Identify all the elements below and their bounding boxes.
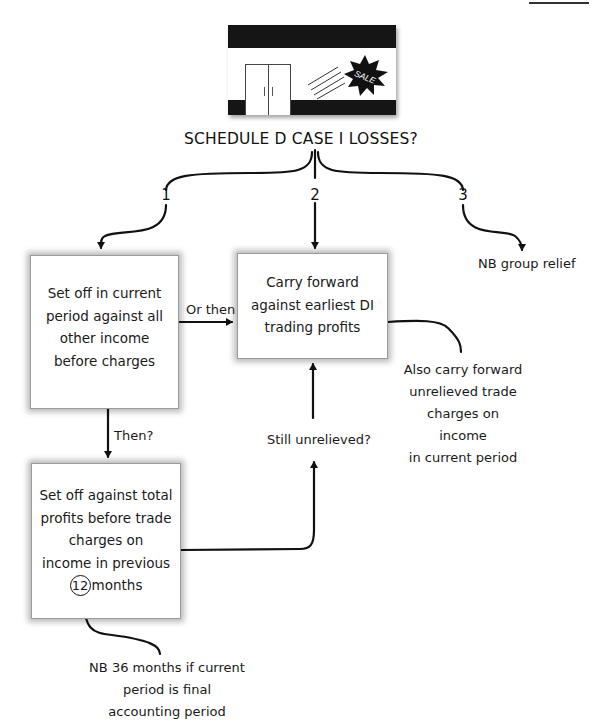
box3-line-4: income in previous [39, 552, 172, 575]
box3-line-3: charges on [39, 529, 172, 552]
label-or-then: Or then [186, 299, 235, 321]
box3-to-unrelieved-line [181, 462, 314, 550]
box2-note-connector [388, 321, 461, 352]
shop-door-icon [245, 64, 291, 115]
box-set-off-current-period-text: Set off in current period against all ot… [46, 282, 163, 372]
branch-number-3: 3 [453, 186, 473, 204]
box3-months-text: months [92, 577, 143, 593]
box-carry-forward-text: Carry forward against earliest DI tradin… [251, 271, 374, 339]
box3-line-5: 12months [39, 574, 172, 597]
door-handle-left [264, 87, 265, 96]
window-glare-icon [308, 67, 345, 99]
branch-number-2: 2 [305, 186, 325, 204]
branch-3-arrow [463, 205, 522, 250]
diagram-canvas: SALE SCHEDULE D CASE I LOSSES? [0, 0, 602, 724]
shop-front-illustration: SALE [228, 25, 396, 115]
box-set-off-previous-period: Set off against total profits before tra… [31, 463, 181, 619]
note-also-carry-forward: Also carry forward unrelieved trade char… [403, 359, 523, 469]
box-set-off-previous-period-text: Set off against total profits before tra… [39, 484, 172, 597]
box3-line-1: Set off against total [39, 484, 172, 507]
note-nb-36-months: NB 36 months if current period is final … [87, 657, 247, 723]
label-still-unrelieved: Still unrelieved? [267, 429, 371, 451]
branch-3-brace-upper [318, 152, 463, 190]
label-then: Then? [114, 425, 153, 447]
note-group-relief: NB group relief [478, 253, 576, 275]
box-carry-forward: Carry forward against earliest DI tradin… [237, 253, 388, 359]
corner-rule [529, 2, 589, 4]
box3-line-2: profits before trade [39, 507, 172, 530]
door-handle-right [272, 87, 273, 96]
diagram-title: SCHEDULE D CASE I LOSSES? [0, 130, 602, 148]
branch-1-arrow [101, 205, 166, 248]
circled-number-12: 12 [70, 575, 91, 596]
branch-number-1: 1 [156, 186, 176, 204]
branch-1-brace-upper [166, 152, 312, 190]
box-set-off-current-period: Set off in current period against all ot… [30, 255, 179, 409]
